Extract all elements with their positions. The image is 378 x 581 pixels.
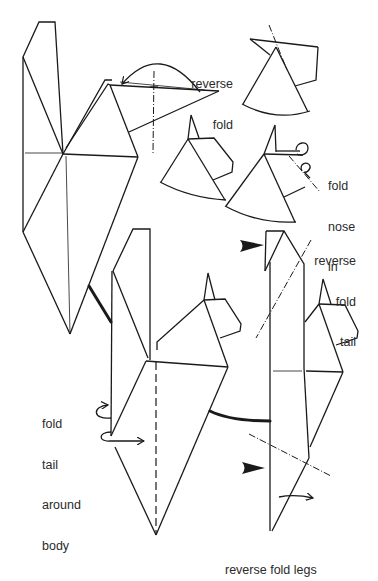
label-fold-tail-around-body: fold tail around body (42, 391, 81, 567)
label-line: reverse (183, 78, 233, 92)
nose-fold-loop-arrow (296, 143, 308, 155)
legs-mountain-fold-line (249, 434, 331, 476)
tail-around-arrow (101, 432, 144, 441)
tail-mountain-fold-line (256, 240, 311, 338)
tail-loop-arrow (96, 405, 111, 418)
label-reverse-fold-tail: reverse fold tail (306, 228, 356, 363)
step-2c-head-nose-fold (225, 125, 320, 222)
label-line: fold (328, 180, 355, 194)
label-line: fold (183, 119, 233, 133)
push-arrow-tail (240, 240, 264, 252)
label-line: tail (306, 336, 356, 350)
label-line: reverse fold legs (225, 564, 317, 578)
mountain-fold-line (153, 71, 154, 153)
connector-curve (210, 411, 270, 421)
label-line: reverse (306, 255, 356, 269)
label-reverse-fold-legs: reverse fold legs (225, 537, 317, 581)
label-line: fold (42, 418, 81, 432)
connector-line (89, 286, 111, 322)
label-line: around (42, 499, 81, 513)
push-arrow-legs (242, 462, 265, 474)
legs-arrow (279, 496, 313, 498)
step-3-body-fold-tail (96, 229, 241, 535)
label-line: body (42, 540, 81, 554)
label-reverse-fold: reverse fold (183, 51, 233, 146)
label-line: tail (42, 459, 81, 473)
mountain-fold-line (269, 25, 287, 70)
label-line: fold (306, 296, 356, 310)
step-2a-head-after-reverse-fold (242, 25, 318, 115)
